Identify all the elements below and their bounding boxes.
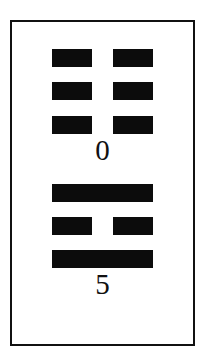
trigram-top-label: 0 — [0, 136, 205, 165]
broken-line-left-segment — [52, 217, 92, 235]
broken-line-left-segment — [52, 49, 92, 67]
broken-line-right-segment — [113, 217, 153, 235]
broken-line-right-segment — [113, 49, 153, 67]
broken-line-left-segment — [52, 116, 92, 134]
solid-line — [52, 184, 153, 202]
solid-line — [52, 250, 153, 268]
broken-line-right-segment — [113, 116, 153, 134]
broken-line-right-segment — [113, 82, 153, 100]
trigram-bottom-label: 5 — [0, 270, 205, 299]
broken-line-left-segment — [52, 82, 92, 100]
